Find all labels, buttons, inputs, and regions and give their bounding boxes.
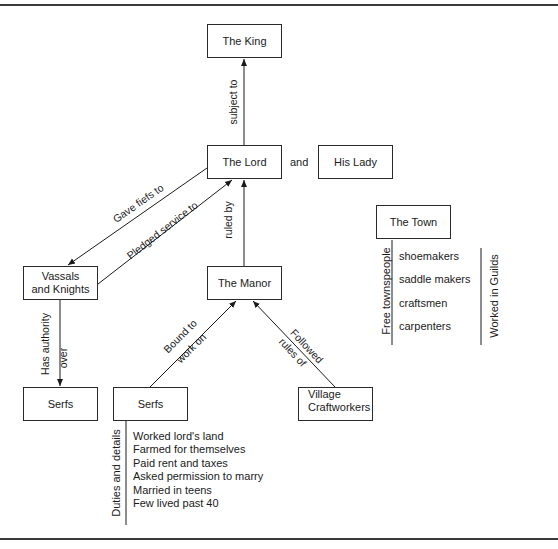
node-the-town: The Town — [376, 205, 451, 239]
serf-detail-item: Married in teens — [133, 484, 212, 497]
node-label-line1: Village — [308, 388, 341, 401]
node-label: Serfs — [48, 398, 74, 411]
node-label-line1: Vassals — [42, 270, 80, 283]
node-label: The Lord — [222, 156, 266, 169]
town-item: shoemakers — [399, 250, 459, 263]
serf-detail-item: Farmed for themselves — [133, 443, 245, 456]
node-village-craftworkers: Village Craftworkers — [298, 387, 373, 421]
label-has-authority: Has authority — [39, 309, 51, 379]
node-label-line2: Craftworkers — [308, 401, 370, 414]
node-serfs-left: Serfs — [23, 387, 98, 421]
node-label: His Lady — [334, 156, 377, 169]
label-subject-to: subject to — [227, 72, 239, 132]
node-label: Serfs — [138, 398, 164, 411]
node-label-line2: and Knights — [31, 283, 89, 296]
label-free-townspeople: Free townspeople — [380, 241, 392, 341]
serf-detail-item: Paid rent and taxes — [133, 457, 228, 470]
connector-and: and — [290, 156, 308, 168]
label-worked-in-guilds: Worked in Guilds — [488, 246, 500, 346]
node-label: The Town — [390, 216, 438, 229]
node-the-king: The King — [207, 24, 282, 58]
label-ruled-by: ruled by — [222, 195, 234, 245]
node-his-lady: His Lady — [318, 145, 393, 179]
town-item: saddle makers — [399, 273, 471, 286]
serf-detail-item: Few lived past 40 — [133, 497, 219, 510]
node-vassals-and-knights: Vassals and Knights — [23, 266, 98, 300]
label-duties-and-details: Duties and details — [110, 423, 122, 523]
town-item: craftsmen — [399, 297, 447, 310]
node-serfs-right: Serfs — [113, 387, 188, 421]
node-the-manor: The Manor — [207, 266, 282, 300]
label-over: over — [57, 343, 69, 373]
node-label: The Manor — [218, 277, 271, 290]
node-the-lord: The Lord — [207, 145, 282, 179]
node-label: The King — [222, 35, 266, 48]
serf-detail-item: Worked lord's land — [133, 430, 224, 443]
town-item: carpenters — [399, 320, 451, 333]
serf-detail-item: Asked permission to marry — [133, 470, 263, 483]
